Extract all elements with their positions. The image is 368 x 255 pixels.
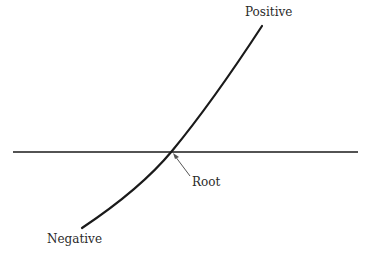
root-label: Root: [192, 176, 220, 188]
function-curve: [82, 26, 262, 228]
root-arrow-head-icon: [173, 153, 179, 159]
root-finding-diagram: Positive Root Negative: [0, 0, 368, 255]
positive-label: Positive: [245, 6, 292, 18]
diagram-canvas: [0, 0, 368, 255]
negative-label: Negative: [47, 233, 102, 245]
root-arrow-shaft: [175, 156, 190, 176]
